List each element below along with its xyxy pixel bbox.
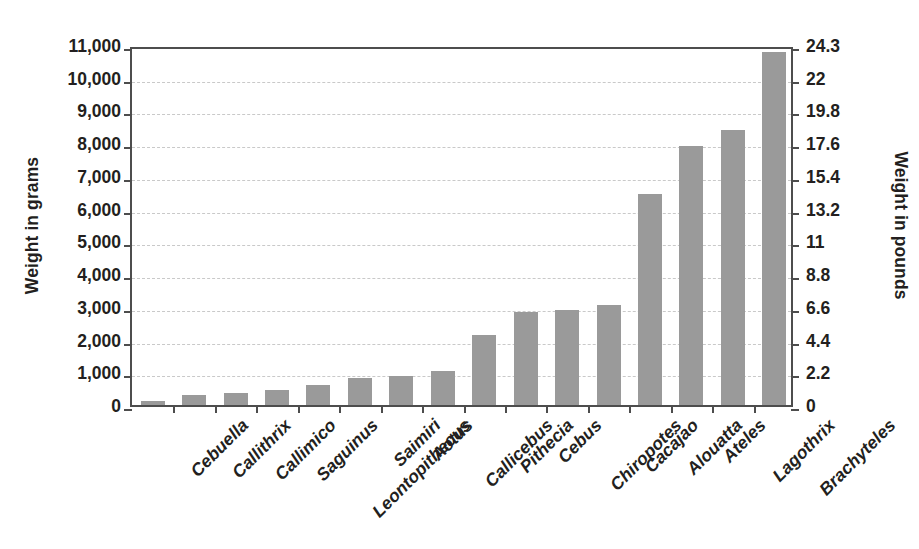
bar-chart-figure: Weight in grams Weight in pounds 01,0002… <box>0 0 919 549</box>
x-axis-labels: CebuellaCallithrixCallimicoSaguinusLeont… <box>0 0 919 549</box>
